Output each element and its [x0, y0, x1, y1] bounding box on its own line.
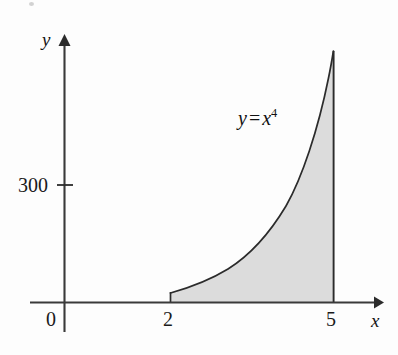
- y-axis-name-label: y: [42, 30, 50, 49]
- x-axis-name-label: x: [371, 311, 379, 330]
- equation-base: x: [262, 107, 271, 129]
- figure-container: 300 0 2 5 x y y=x4: [0, 0, 398, 355]
- y-axis-arrowhead-icon: [59, 34, 71, 46]
- equation-exponent: 4: [271, 106, 277, 120]
- x-axis-tick-label-5: 5: [326, 309, 336, 329]
- shaded-area-region: [171, 51, 334, 303]
- y-axis-tick-label-300: 300: [18, 175, 48, 195]
- equation-lhs: y: [238, 107, 247, 129]
- x-axis-tick-label-2: 2: [163, 309, 173, 329]
- origin-label: 0: [46, 309, 56, 329]
- plot-svg: [0, 0, 398, 355]
- x-axis-arrowhead-icon: [374, 297, 384, 309]
- equation-operator: =: [247, 107, 262, 129]
- curve-equation-label: y=x4: [238, 108, 277, 128]
